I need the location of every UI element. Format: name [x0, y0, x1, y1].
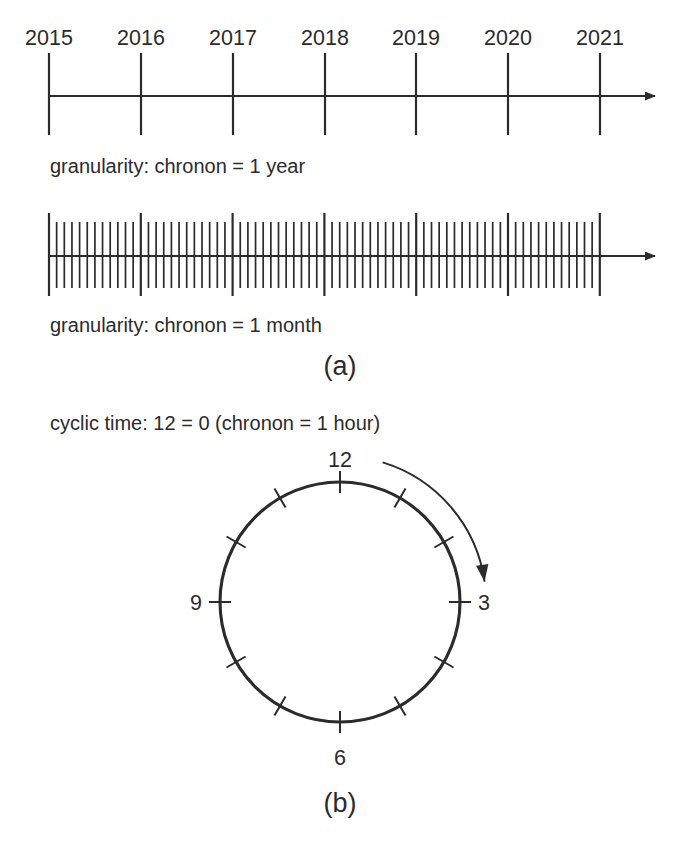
year-tick-label: 2016 — [117, 26, 165, 50]
year-timeline-group: 2015 2016 2017 2018 2019 2020 — [25, 26, 655, 177]
year-tick-2017: 2017 — [209, 26, 257, 135]
year-tick-2020: 2020 — [484, 26, 532, 135]
clock-number-3: 3 — [478, 591, 490, 615]
clock-number-9: 9 — [190, 591, 202, 615]
year-tick-2021: 2021 — [576, 26, 624, 135]
month-granularity-caption: granularity: chronon = 1 month — [50, 314, 322, 336]
clock-hour-tick-8 — [227, 657, 246, 668]
month-tick-collection — [49, 213, 600, 296]
panel-label-a: (a) — [324, 351, 357, 381]
year-tick-2018: 2018 — [301, 26, 349, 135]
panel-label-b: (b) — [324, 788, 357, 818]
clock-hour-tick-4 — [434, 657, 453, 668]
clock-hour-tick-7 — [275, 696, 286, 715]
clock-hour-tick-10 — [227, 537, 246, 548]
clock-hour-tick-1 — [395, 489, 406, 508]
direction-arrowhead — [476, 564, 488, 582]
year-tick-2019: 2019 — [392, 26, 440, 135]
year-tick-2015: 2015 — [25, 26, 73, 135]
year-tick-2016: 2016 — [117, 26, 165, 135]
direction-arc — [383, 462, 485, 581]
clock-number-12: 12 — [328, 448, 352, 472]
clock-hour-tick-11 — [275, 489, 286, 508]
cyclic-clock-group: 12 3 6 9 — [190, 448, 490, 770]
clock-hour-tick-2 — [434, 537, 453, 548]
year-tick-label: 2019 — [392, 26, 440, 50]
figure-canvas: 2015 2016 2017 2018 2019 2020 — [0, 0, 700, 847]
clock-hour-tick-5 — [395, 696, 406, 715]
year-tick-label: 2018 — [301, 26, 349, 50]
month-timeline-group: granularity: chronon = 1 month — [49, 213, 655, 336]
year-tick-label: 2020 — [484, 26, 532, 50]
clock-tick-collection — [209, 471, 471, 733]
year-granularity-caption: granularity: chronon = 1 year — [50, 155, 305, 177]
clockwise-direction-arrow — [383, 462, 489, 581]
year-tick-label: 2017 — [209, 26, 257, 50]
timeline-granularity-figure: 2015 2016 2017 2018 2019 2020 — [0, 0, 700, 847]
clock-circle-outline — [220, 482, 460, 722]
cyclic-time-caption: cyclic time: 12 = 0 (chronon = 1 hour) — [50, 412, 380, 434]
year-tick-label: 2015 — [25, 26, 73, 50]
year-tick-label: 2021 — [576, 26, 624, 50]
clock-number-6: 6 — [334, 746, 346, 770]
